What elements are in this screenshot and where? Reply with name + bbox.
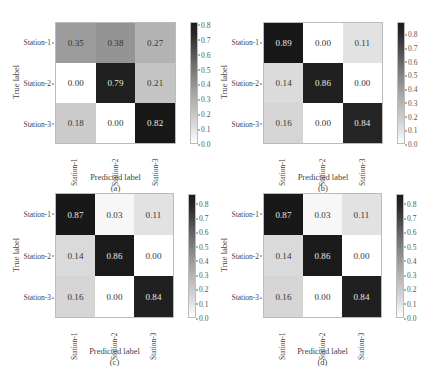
y-tick-label: Station-1 <box>7 209 51 218</box>
matrix-cell: 0.86 <box>303 235 342 276</box>
matrix-cell: 0.79 <box>96 63 136 103</box>
colorbar-tick-label: 0.1 <box>201 125 210 134</box>
colorbar-tick-label: 0.0 <box>407 314 416 323</box>
colorbar-tick-label: 0.5 <box>407 242 416 251</box>
matrix-cell: 0.00 <box>342 235 381 276</box>
panel-caption: (a) <box>55 183 176 193</box>
matrix-cell: 0.38 <box>96 23 136 63</box>
y-tick-label: Station-3 <box>7 119 51 128</box>
colorbar <box>396 194 404 318</box>
colorbar <box>190 22 198 144</box>
matrix-cell: 0.03 <box>303 194 342 235</box>
colorbar-tick-label: 0.6 <box>201 50 210 59</box>
matrix-cell: 0.03 <box>95 194 134 235</box>
matrix-cell: 0.00 <box>134 235 173 276</box>
y-tick-label: Station-1 <box>7 38 51 47</box>
matrix-cell: 0.84 <box>342 276 381 317</box>
y-tick-label: Station-1 <box>215 38 259 47</box>
colorbar-tick-label: 0.2 <box>407 285 416 294</box>
panel-caption: (c) <box>55 357 174 367</box>
colorbar-tick-label: 0.6 <box>408 57 417 66</box>
panel-caption: (b) <box>263 183 383 193</box>
colorbar-tick-label: 0.6 <box>407 228 416 237</box>
y-axis-title: True label <box>219 230 229 280</box>
colorbar-tick-label: 0.3 <box>408 98 417 107</box>
matrix-cell: 0.16 <box>264 103 303 143</box>
colorbar-tick-label: 0.0 <box>408 140 417 149</box>
y-tick-label: Station-3 <box>215 293 259 302</box>
matrix-cell: 0.14 <box>56 235 95 276</box>
colorbar-tick-label: 0.7 <box>407 214 416 223</box>
colorbar-tick-label: 0.2 <box>201 110 210 119</box>
matrix-cell: 0.89 <box>264 23 303 63</box>
confusion-matrix-grid: 0.350.380.270.000.790.210.180.000.82 <box>55 22 176 144</box>
colorbar-tick-label: 0.2 <box>199 285 208 294</box>
x-axis-title: Predicted label <box>55 346 174 356</box>
matrix-cell: 0.86 <box>95 235 134 276</box>
colorbar-tick-label: 0.8 <box>407 199 416 208</box>
colorbar-tick-label: 0.4 <box>408 85 417 94</box>
colorbar-tick-label: 0.1 <box>199 299 208 308</box>
panel-caption: (d) <box>263 357 382 367</box>
matrix-cell: 0.14 <box>264 63 303 103</box>
matrix-cell: 0.21 <box>135 63 175 103</box>
matrix-cell: 0.87 <box>56 194 95 235</box>
matrix-cell: 0.35 <box>56 23 96 63</box>
matrix-cell: 0.00 <box>56 63 96 103</box>
matrix-cell: 0.18 <box>56 103 96 143</box>
matrix-cell: 0.82 <box>135 103 175 143</box>
matrix-cell: 0.16 <box>264 276 303 317</box>
colorbar-tick-label: 0.4 <box>199 256 208 265</box>
y-axis-title: True label <box>219 57 229 107</box>
colorbar-tick-label: 0.0 <box>201 140 210 149</box>
matrix-cell: 0.16 <box>56 276 95 317</box>
matrix-cell: 0.00 <box>303 103 342 143</box>
y-tick-label: Station-3 <box>215 119 259 128</box>
colorbar <box>397 22 405 144</box>
colorbar-tick-label: 0.4 <box>407 256 416 265</box>
colorbar-tick-label: 0.7 <box>199 214 208 223</box>
colorbar-tick-label: 0.3 <box>201 95 210 104</box>
colorbar-tick-label: 0.0 <box>199 314 208 323</box>
matrix-cell: 0.00 <box>303 276 342 317</box>
colorbar-tick-label: 0.5 <box>408 71 417 80</box>
colorbar-tick-label: 0.8 <box>201 20 210 29</box>
x-axis-title: Predicted label <box>55 172 176 182</box>
y-axis-title: True label <box>11 230 21 280</box>
matrix-cell: 0.00 <box>96 103 136 143</box>
matrix-cell: 0.00 <box>303 23 342 63</box>
y-axis-title: True label <box>11 57 21 107</box>
colorbar-tick-label: 0.4 <box>201 80 210 89</box>
colorbar-tick-label: 0.6 <box>199 228 208 237</box>
colorbar-tick-label: 0.2 <box>408 112 417 121</box>
colorbar-tick-label: 0.5 <box>201 65 210 74</box>
colorbar-tick-label: 0.7 <box>201 35 210 44</box>
matrix-cell: 0.11 <box>134 194 173 235</box>
colorbar-tick-label: 0.3 <box>407 271 416 280</box>
colorbar-tick-label: 0.1 <box>407 299 416 308</box>
matrix-cell: 0.14 <box>264 235 303 276</box>
matrix-cell: 0.84 <box>343 103 382 143</box>
colorbar-tick-label: 0.7 <box>408 44 417 53</box>
matrix-cell: 0.11 <box>342 194 381 235</box>
colorbar-tick-label: 0.1 <box>408 126 417 135</box>
matrix-cell: 0.84 <box>134 276 173 317</box>
x-axis-title: Predicted label <box>263 346 382 356</box>
colorbar-tick-label: 0.5 <box>199 242 208 251</box>
colorbar-tick-label: 0.3 <box>199 271 208 280</box>
colorbar <box>188 194 196 318</box>
confusion-matrix-grid: 0.870.030.110.140.860.000.160.000.84 <box>55 193 174 318</box>
confusion-matrix-grid: 0.890.000.110.140.860.000.160.000.84 <box>263 22 383 144</box>
confusion-matrix-grid: 0.870.030.110.140.860.000.160.000.84 <box>263 193 382 318</box>
y-tick-label: Station-3 <box>7 293 51 302</box>
matrix-cell: 0.27 <box>135 23 175 63</box>
colorbar-tick-label: 0.8 <box>199 199 208 208</box>
matrix-cell: 0.87 <box>264 194 303 235</box>
x-axis-title: Predicted label <box>263 172 383 182</box>
matrix-cell: 0.00 <box>95 276 134 317</box>
matrix-cell: 0.11 <box>343 23 382 63</box>
y-tick-label: Station-1 <box>215 209 259 218</box>
matrix-cell: 0.86 <box>303 63 342 103</box>
colorbar-tick-label: 0.8 <box>408 30 417 39</box>
matrix-cell: 0.00 <box>343 63 382 103</box>
